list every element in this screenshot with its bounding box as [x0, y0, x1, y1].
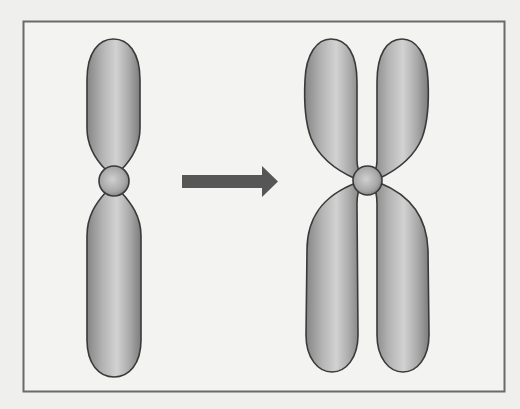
centromere — [353, 166, 382, 195]
single-chromosome — [87, 39, 141, 377]
chromosome-diagram — [0, 0, 520, 409]
centromere — [99, 166, 129, 196]
upper-arm — [87, 39, 140, 170]
lower-arm — [87, 192, 141, 377]
diagram-canvas — [0, 0, 520, 409]
